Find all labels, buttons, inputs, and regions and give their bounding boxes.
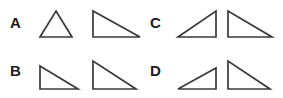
option-a-group[interactable]: A bbox=[10, 11, 140, 37]
triangle-b-1 bbox=[40, 66, 78, 89]
option-d-group[interactable]: D bbox=[150, 61, 270, 89]
triangle-c-1 bbox=[178, 11, 216, 37]
option-c-group[interactable]: C bbox=[150, 11, 272, 37]
triangle-a-1 bbox=[40, 11, 72, 37]
triangle-options-figure: A B C D bbox=[0, 0, 283, 98]
triangle-c-2 bbox=[228, 11, 272, 37]
option-b-group[interactable]: B bbox=[10, 61, 136, 89]
triangle-d-2 bbox=[228, 61, 270, 89]
triangle-a-2 bbox=[93, 11, 140, 37]
option-label-c: C bbox=[150, 14, 161, 31]
triangle-d-1 bbox=[178, 68, 216, 89]
triangle-b-2 bbox=[93, 61, 136, 89]
triangle-options-canvas: A B C D bbox=[0, 0, 283, 98]
option-label-b: B bbox=[10, 62, 21, 79]
option-label-a: A bbox=[10, 14, 21, 31]
option-label-d: D bbox=[150, 62, 161, 79]
